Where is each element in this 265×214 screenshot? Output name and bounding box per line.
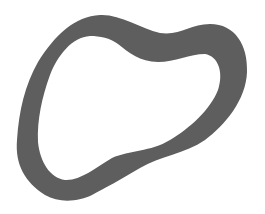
irregular-ring-shape [0,0,265,214]
ring-outline [17,15,247,201]
